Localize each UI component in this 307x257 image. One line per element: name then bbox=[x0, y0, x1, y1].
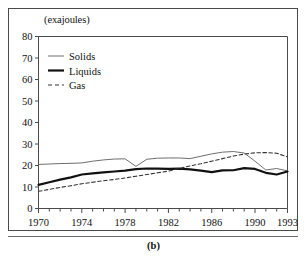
y-tick-label: 30 bbox=[22, 139, 33, 150]
y-axis-ticks: 01020304050607080 bbox=[22, 31, 39, 214]
x-tick-label: 1978 bbox=[115, 217, 136, 228]
y-tick-label: 40 bbox=[22, 117, 33, 128]
legend-label-liquids: Liquids bbox=[69, 66, 101, 77]
x-axis-ticks: 1970197419781982198619901993 bbox=[28, 209, 298, 228]
y-tick-label: 80 bbox=[22, 31, 33, 42]
figure-container: (exajoules) 01020304050607080 1970197419… bbox=[0, 0, 307, 257]
x-tick-label: 1970 bbox=[28, 217, 49, 228]
y-tick-label: 20 bbox=[22, 160, 33, 171]
y-tick-label: 60 bbox=[22, 74, 33, 85]
x-tick-label: 1993 bbox=[277, 217, 298, 228]
y-tick-label: 0 bbox=[27, 203, 32, 214]
legend-label-gas: Gas bbox=[69, 80, 85, 91]
y-tick-label: 70 bbox=[22, 53, 33, 64]
x-tick-label: 1990 bbox=[245, 217, 266, 228]
data-series-group bbox=[39, 152, 288, 192]
series-line-liquids bbox=[39, 168, 288, 185]
axes-group bbox=[39, 37, 288, 209]
x-tick-label: 1986 bbox=[201, 217, 222, 228]
chart-plot: 01020304050607080 1970197419781982198619… bbox=[0, 0, 307, 257]
y-tick-label: 50 bbox=[22, 96, 33, 107]
chart-legend: SolidsLiquidsGas bbox=[48, 51, 101, 91]
x-tick-label: 1974 bbox=[71, 217, 93, 228]
caption-divider bbox=[8, 236, 298, 237]
legend-label-solids: Solids bbox=[69, 51, 95, 62]
figure-caption: (b) bbox=[0, 240, 307, 251]
y-tick-label: 10 bbox=[22, 182, 33, 193]
x-tick-label: 1982 bbox=[158, 217, 179, 228]
